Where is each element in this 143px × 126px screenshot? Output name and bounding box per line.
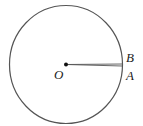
segment-OB [66,64,122,65]
center-point [64,63,68,67]
circle-diagram: O B A [0,0,143,126]
label-B: B [126,50,134,65]
label-A: A [125,68,134,83]
label-O: O [54,67,64,82]
